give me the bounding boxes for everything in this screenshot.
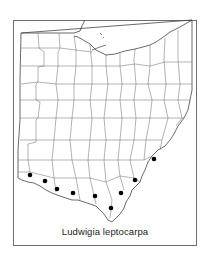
occurrence-dot [93,194,98,199]
distribution-map [0,0,210,256]
occurrence-dot [43,179,48,184]
species-caption: Ludwigia leptocarpa [13,226,197,237]
peninsula [92,45,106,50]
occurrence-dot [133,178,138,183]
state-outline [18,20,192,222]
lake-island [100,33,104,38]
occurrence-markers [28,157,157,211]
occurrence-dot [152,157,157,162]
county-boundaries [18,30,192,218]
occurrence-dot [119,191,124,196]
occurrence-dot [109,206,114,211]
occurrence-dot [55,187,60,192]
occurrence-dot [28,173,33,178]
occurrence-dot [71,191,76,196]
